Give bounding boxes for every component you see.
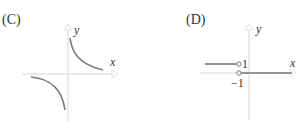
tick-label-1: 1 xyxy=(242,57,248,71)
graph-d-plot: y x 1 −1 xyxy=(150,0,303,134)
tick-label-neg-1: −1 xyxy=(231,76,244,90)
open-circle-upper xyxy=(237,62,241,66)
graph-c: (C) y x xyxy=(0,0,150,134)
x-axis-label: x xyxy=(109,55,116,69)
x-axis-label: x xyxy=(289,56,296,70)
x-axis-arrow-icon xyxy=(112,70,118,78)
y-axis-label: y xyxy=(73,23,80,37)
open-circle-lower xyxy=(237,71,241,75)
y-axis-arrow-icon xyxy=(64,24,72,30)
curve-branch-quadrant-3 xyxy=(31,77,65,110)
graph-c-plot: y x xyxy=(0,0,150,134)
curve-branch-quadrant-1 xyxy=(70,38,103,70)
y-axis-label: y xyxy=(255,22,262,36)
graph-d: (D) y x 1 −1 xyxy=(150,0,303,134)
y-axis-arrow-icon xyxy=(245,24,253,30)
